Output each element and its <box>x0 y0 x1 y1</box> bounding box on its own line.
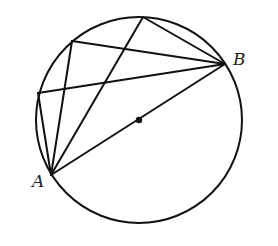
center-point <box>136 117 142 123</box>
point-label-b: B <box>232 49 246 69</box>
inscribed-angle-diagram: A B <box>0 0 278 246</box>
point-label-a: A <box>30 171 44 191</box>
